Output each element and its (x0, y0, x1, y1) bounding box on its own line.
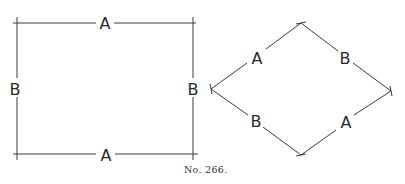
rect-right-label: B (188, 80, 199, 99)
diamond-upper-left-edge-b (266, 23, 301, 49)
diamond-upper-left-edge-a (211, 63, 247, 89)
diamond-upper-left-label: A (252, 49, 263, 68)
rect-top-label: A (100, 14, 111, 33)
diamond-lower-left-label: B (251, 112, 262, 131)
diamond-lower-right-edge-a (301, 130, 336, 155)
diamond-lower-right-label: A (341, 113, 352, 132)
diamond-upper-right-edge-b (353, 63, 391, 91)
rect-left-label: B (10, 80, 21, 99)
diamond-top-tick (296, 22, 306, 24)
figure-caption: No. 266. (184, 164, 227, 175)
diamond-upper-right-edge-a (301, 23, 338, 51)
rect-bottom-label: A (101, 146, 112, 165)
diamond-figure: A B B A (210, 22, 392, 156)
figure-canvas: A A B B A B B A No. 266. (0, 0, 405, 184)
diamond-upper-right-label: B (340, 49, 351, 68)
diamond-lower-right-edge-b (354, 91, 391, 115)
diamond-bottom-tick (296, 154, 306, 156)
diamond-lower-left-edge-a (211, 89, 248, 115)
rectangle-figure: A A B B (10, 14, 199, 165)
diamond-lower-left-edge-b (263, 127, 301, 155)
